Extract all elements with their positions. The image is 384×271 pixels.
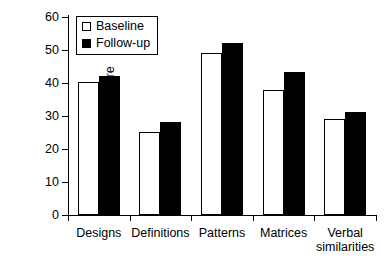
legend-label-baseline: Baseline bbox=[96, 20, 144, 33]
y-axis-line bbox=[68, 15, 69, 216]
bar-baseline bbox=[263, 90, 284, 215]
bar-baseline bbox=[139, 132, 160, 215]
legend-item-baseline: Baseline bbox=[82, 20, 150, 33]
x-axis-line bbox=[66, 215, 376, 216]
y-axis-tick bbox=[62, 149, 68, 150]
bar-baseline bbox=[78, 82, 99, 215]
bar-followup bbox=[284, 72, 305, 215]
y-axis-tick bbox=[62, 116, 68, 117]
bar-followup bbox=[160, 122, 181, 215]
open-square-icon bbox=[82, 22, 91, 31]
y-axis-tick-label: 50 bbox=[19, 44, 59, 57]
x-axis-tick bbox=[314, 215, 315, 221]
legend-label-followup: Follow-up bbox=[96, 37, 150, 50]
x-axis-tick bbox=[130, 215, 131, 221]
bar-chart: BAS ability score 0102030405060 DesignsD… bbox=[0, 0, 384, 271]
legend: Baseline Follow-up bbox=[76, 16, 158, 55]
bar-followup bbox=[222, 43, 243, 215]
x-axis-tick bbox=[376, 215, 377, 221]
x-axis-category-label: Verbal similarities bbox=[300, 226, 384, 254]
y-axis-tick bbox=[62, 83, 68, 84]
y-axis-tick bbox=[62, 182, 68, 183]
y-axis-tick-label: 30 bbox=[19, 110, 59, 123]
legend-item-followup: Follow-up bbox=[82, 37, 150, 50]
y-axis-tick-label: 10 bbox=[19, 176, 59, 189]
bar-followup bbox=[99, 76, 120, 215]
y-axis-tick bbox=[62, 50, 68, 51]
bar-followup bbox=[345, 112, 366, 215]
y-axis-tick-label: 60 bbox=[19, 11, 59, 24]
y-axis-tick-label: 40 bbox=[19, 77, 59, 90]
x-axis-tick bbox=[191, 215, 192, 221]
filled-square-icon bbox=[82, 39, 91, 48]
x-axis-tick bbox=[68, 215, 69, 221]
y-axis-tick bbox=[62, 17, 68, 18]
x-axis-tick bbox=[253, 215, 254, 221]
bar-baseline bbox=[324, 119, 345, 215]
y-axis-tick-label: 0 bbox=[19, 209, 59, 222]
bar-baseline bbox=[201, 53, 222, 215]
y-axis-tick-label: 20 bbox=[19, 143, 59, 156]
